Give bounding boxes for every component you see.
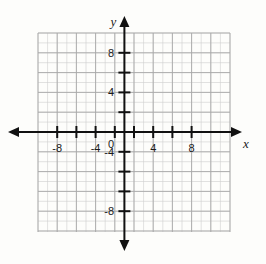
y-axis-name: y [109, 14, 117, 29]
y-axis [119, 16, 129, 251]
x-tick-label-pos-4: 4 [150, 142, 156, 154]
x-tick-label-neg-4: -4 [91, 142, 101, 154]
x-tick-label-neg-8: -8 [52, 142, 62, 154]
y-tick-label-pos-8: 8 [108, 47, 114, 59]
y-axis-down-arrow-icon [119, 240, 129, 251]
x-axis-name: x [242, 136, 249, 151]
origin-label: 0 [108, 138, 114, 150]
x-tick-label-pos-8: 8 [189, 142, 195, 154]
y-tick-label-neg-8: -8 [104, 205, 114, 217]
x-axis-left-arrow-icon [8, 127, 19, 137]
y-tick-label-pos-4: 4 [108, 86, 114, 98]
y-axis-up-arrow-icon [119, 16, 129, 27]
coordinate-plane-figure: -8 -4 4 8 8 4 -4 -8 0 y x [0, 0, 266, 264]
x-axis-right-arrow-icon [231, 127, 242, 137]
coordinate-plane-svg: -8 -4 4 8 8 4 -4 -8 0 y x [0, 0, 266, 264]
